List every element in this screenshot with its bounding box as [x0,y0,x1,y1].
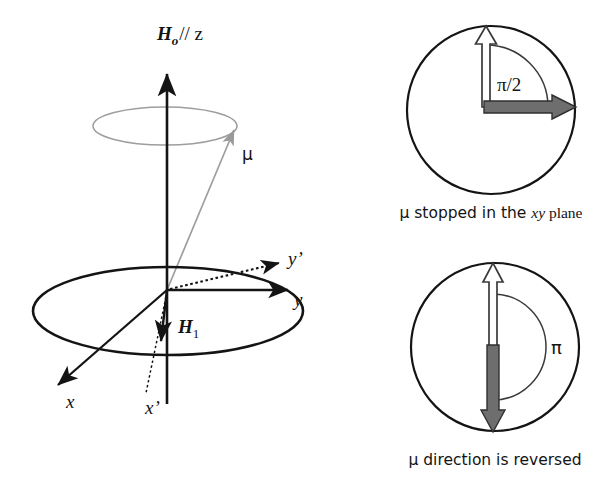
bottom-panel-angle-label: π [551,337,562,358]
top-panel-angle-label: π/2 [497,74,521,95]
top-caption-part-after: plane [545,204,583,221]
top-panel-caption: μ stopped in the xy plane [399,204,582,222]
h0-label-suffix: // z [179,23,203,44]
top-caption-part-italic: xy [530,204,545,221]
bottom-panel-caption: μ direction is reversed [408,451,581,469]
top-caption-part-before: μ stopped in the [399,204,531,222]
h0-label-main: H [156,23,173,44]
y-axis-label: y [292,289,303,310]
canvas-background [0,0,612,479]
h0-label-subscript: o [172,33,179,48]
y-prime-axis-label: y’ [286,248,303,269]
nmr-precession-figure: Ho// z μ H1 y y’ x x’ π/2 μ stopped in t… [0,0,612,479]
mu-vector-label: μ [242,144,253,164]
x-prime-axis-label: x’ [144,397,160,418]
h1-label-subscript: 1 [193,326,200,341]
x-axis-label: x [65,391,75,412]
h1-label-main: H [177,316,194,337]
figure-canvas: Ho// z μ H1 y y’ x x’ π/2 μ stopped in t… [0,0,612,479]
